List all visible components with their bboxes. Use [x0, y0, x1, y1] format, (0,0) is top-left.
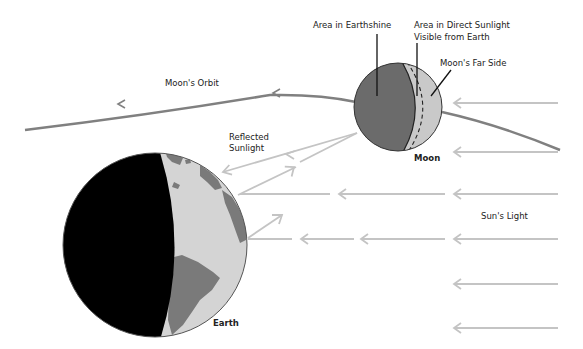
orbit-arrow-icon [118, 100, 125, 108]
moon-orbit [25, 89, 560, 150]
reflected-label-line1: Reflected [229, 132, 269, 143]
reflected-label-line2: Sunlight [229, 143, 264, 154]
direct-sunlight-label-line1: Area in Direct Sunlight [414, 20, 510, 31]
moon [350, 60, 442, 155]
earth-label: Earth [213, 318, 239, 329]
moon-label: Moon [414, 153, 440, 164]
earth [50, 140, 247, 345]
direct-sunlight-label-line2: Visible from Earth [414, 32, 490, 43]
earthshine-diagram: Area in Earthshine Area in Direct Sunlig… [0, 0, 583, 349]
far-side-label: Moon's Far Side [440, 58, 507, 69]
earthshine-label: Area in Earthshine [313, 20, 391, 31]
orbit-label: Moon's Orbit [165, 78, 219, 89]
suns-light-label: Sun's Light [481, 211, 528, 222]
